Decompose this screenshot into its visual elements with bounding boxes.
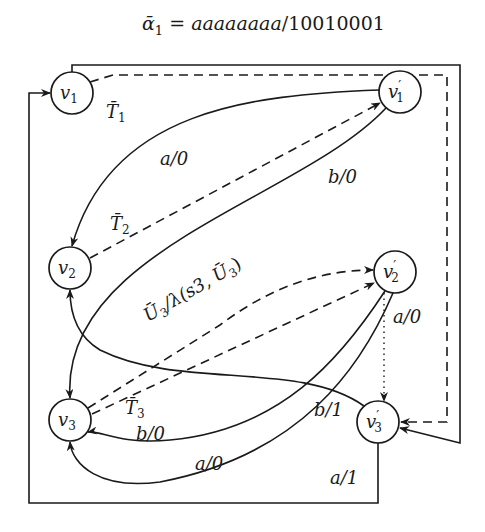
label-a0-v1p-v2: a/0 — [160, 148, 188, 169]
edge-v3p-to-v2 — [70, 290, 364, 406]
edge-U3-dashed — [88, 270, 373, 408]
edge-T1-dashed — [90, 75, 447, 422]
alpha-title: ᾱ1 = aaaaaaaa/10010001 — [142, 12, 385, 38]
label-b0-v2p-v3: b/0 — [136, 423, 165, 444]
node-v2-prime: v′2 — [374, 251, 416, 293]
node-v3: v3 — [49, 399, 91, 441]
label-U3-lambda: Ū3/λ(s3, Ū3) — [139, 252, 246, 328]
label-T2: T̄2 — [110, 212, 130, 237]
node-v3-prime: v′3 — [357, 401, 399, 443]
label-a0-v2p-v3-lower: a/0 — [195, 453, 223, 474]
node-v1-prime: v′1 — [379, 71, 421, 113]
label-a0-v2p-v3p: a/0 — [393, 306, 421, 327]
label-b1-v3p-v2: b/1 — [314, 399, 343, 420]
state-diagram: ᾱ1 = aaaaaaaa/10010001 v1 v′1 v2 v′2 v3 — [0, 0, 485, 532]
label-a1-v3p-v1: a/1 — [330, 467, 358, 488]
label-T1: T̄1 — [106, 100, 126, 125]
label-b0-v1p-v3: b/0 — [328, 166, 357, 187]
edge-T3-dashed — [92, 283, 374, 414]
label-T3: T̄3 — [125, 396, 145, 421]
edge-v1p-to-v3 — [70, 108, 386, 398]
node-v2: v2 — [49, 247, 91, 289]
node-v1: v1 — [51, 72, 93, 114]
